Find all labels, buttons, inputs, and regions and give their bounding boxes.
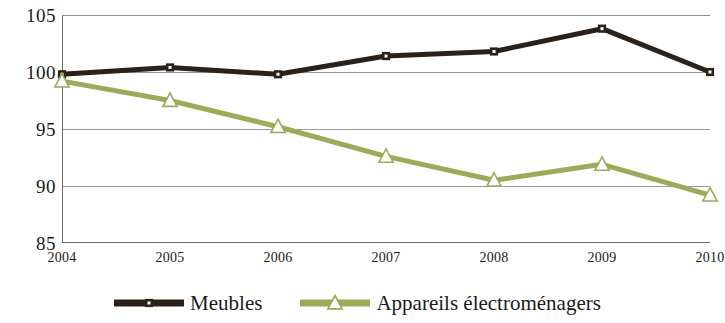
square-marker-icon — [599, 26, 605, 32]
triangle-marker-icon — [298, 292, 372, 314]
x-axis: 2004200520062007200820092010 — [62, 249, 710, 273]
legend-item-label: Meubles — [190, 291, 262, 315]
y-axis-tick-label: 95 — [2, 120, 56, 139]
chart-legend: MeublesAppareils électroménagers — [0, 283, 713, 323]
square-marker-icon — [167, 65, 173, 71]
plot-area — [62, 15, 710, 243]
x-axis-tick-label: 2010 — [695, 249, 724, 267]
legend-item-appareils[interactable]: Appareils électroménagers — [298, 291, 600, 315]
series-line — [62, 81, 710, 195]
x-axis-tick-label: 2004 — [47, 249, 76, 267]
series-appareils — [55, 74, 717, 201]
y-axis-tick-label: 105 — [2, 6, 56, 25]
x-axis-tick-label: 2009 — [587, 249, 616, 267]
legend-item-meubles[interactable]: Meubles — [112, 291, 262, 315]
series-meubles — [59, 26, 713, 77]
square-marker-icon — [707, 69, 713, 75]
series-layer — [62, 15, 710, 243]
legend-item-label: Appareils électroménagers — [376, 291, 600, 315]
square-marker-icon — [112, 292, 186, 314]
x-axis-tick-label: 2005 — [155, 249, 184, 267]
series-line — [62, 29, 710, 75]
square-marker-icon — [383, 53, 389, 59]
square-marker-icon — [275, 71, 281, 77]
y-axis-tick-label: 90 — [2, 177, 56, 196]
y-axis-tick-label: 100 — [2, 63, 56, 82]
x-axis-tick-label: 2007 — [371, 249, 400, 267]
square-marker-icon — [491, 49, 497, 55]
y-axis: 859095100105 — [0, 15, 56, 243]
x-axis-tick-label: 2008 — [479, 249, 508, 267]
square-marker-icon — [146, 300, 152, 306]
x-axis-tick-label: 2006 — [263, 249, 292, 267]
